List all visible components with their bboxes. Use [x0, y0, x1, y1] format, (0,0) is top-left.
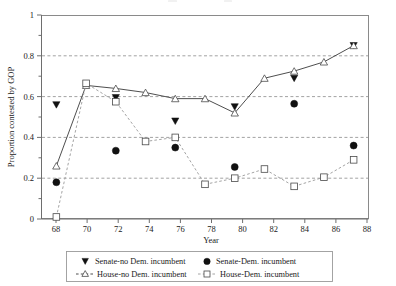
y-axis-title: Proportion contested by GOP: [6, 67, 16, 168]
y-tick-label-0.2: 0.2: [23, 173, 34, 183]
data-point-78: [202, 181, 209, 188]
x-tick-label-80: 80: [238, 224, 247, 234]
data-point-84: [291, 183, 298, 190]
x-tick-label-88: 88: [363, 224, 372, 234]
legend-entry-senate-dem-incumbent: Senate-Dem. incumbent: [204, 257, 297, 266]
x-axis-title: Year: [203, 235, 219, 245]
data-point-86: [321, 174, 328, 181]
x-tick-label-84: 84: [301, 224, 310, 234]
legend-label-house-no-dem: House-no Dem. incumbent: [97, 270, 187, 279]
data-point-88: [350, 157, 357, 164]
data-point-72: [112, 147, 119, 154]
x-tick-label-86: 86: [332, 224, 341, 234]
x-tick-label-74: 74: [145, 224, 154, 234]
x-tick-label-78: 78: [207, 224, 216, 234]
data-point-68: [53, 214, 60, 221]
y-tick-label-0.4: 0.4: [23, 132, 34, 142]
x-tick-label-72: 72: [114, 224, 123, 234]
legend-label-senate-no-dem: Senate-no Dem. incumbent: [95, 257, 186, 266]
legend-label-senate-dem: Senate-Dem. incumbent: [216, 257, 297, 266]
data-point-70: [83, 80, 90, 87]
legend-entry-senate-no-dem-incumbent: Senate-no Dem. incumbent: [82, 257, 186, 266]
data-point-82: [261, 166, 268, 173]
y-tick-label-0.8: 0.8: [23, 51, 34, 61]
data-point-80: [231, 175, 238, 182]
y-tick-label-0: 0: [30, 214, 34, 224]
data-point-68: [53, 179, 60, 186]
chart-background: [0, 0, 396, 286]
x-tick-label-82: 82: [269, 224, 278, 234]
x-tick-label-70: 70: [83, 224, 92, 234]
data-point-88: [350, 142, 357, 149]
x-tick-label-68: 68: [52, 224, 61, 234]
data-point-80: [231, 163, 238, 170]
data-point-76: [172, 134, 179, 141]
data-point-76: [172, 144, 179, 151]
legend-label-house-dem: House-Dem. incumbent: [220, 270, 300, 279]
x-tick-label-76: 76: [176, 224, 185, 234]
data-point-74: [142, 138, 149, 145]
y-tick-label-1: 1: [30, 10, 34, 20]
y-tick-label-0.6: 0.6: [23, 92, 34, 102]
data-point-72: [113, 98, 120, 105]
chart-canvas: 1 0.8 0.6 0.4 0.2 0 Proportion contested…: [0, 0, 396, 286]
chart-figure: 1 0.8 0.6 0.4 0.2 0 Proportion contested…: [0, 0, 396, 286]
chart-legend: Senate-no Dem. incumbent Senate-Dem. inc…: [67, 252, 333, 282]
data-point-84: [291, 100, 298, 107]
